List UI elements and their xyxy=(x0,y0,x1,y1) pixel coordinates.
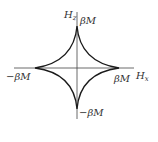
z-axis-label: Hz xyxy=(64,10,76,23)
bottom-cusp-label: −βM xyxy=(79,108,103,118)
left-cusp-label: −βM xyxy=(6,72,30,82)
top-cusp-label: βM xyxy=(80,16,96,26)
right-cusp-label: βM xyxy=(114,74,130,84)
x-axis-label: Hx xyxy=(136,71,149,84)
